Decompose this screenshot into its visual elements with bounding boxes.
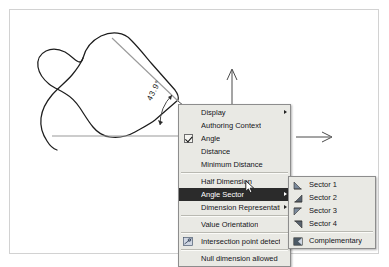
submenu-item-label: Sector 3 [309,204,337,217]
menu-item-half-dimension[interactable]: Half Dimension [179,175,290,188]
submenu-arrow-icon [284,110,287,114]
menu-item-angle-sector[interactable]: Angle Sector [179,188,290,201]
menu-item-authoring-context[interactable]: Authoring Context [179,119,290,132]
menu-item-label: Null dimension allowed [201,252,278,265]
menu-item-label: Dimension Representation [201,201,280,214]
menu-item-label: Angle [201,132,220,145]
menu-item-label: Minimum Distance [201,158,263,171]
menu-separator [181,172,288,174]
intersection-point-icon [183,237,193,246]
submenu-item-label: Complementary [309,234,362,247]
sector-1-icon [293,181,303,190]
submenu-item-sector-1[interactable]: Sector 1 [289,178,375,191]
submenu-item-sector-4[interactable]: Sector 4 [289,217,375,230]
submenu-item-sector-2[interactable]: Sector 2 [289,191,375,204]
submenu-item-complementary[interactable]: Complementary [289,234,375,247]
context-menu[interactable]: Display Authoring Context Angle Distance… [178,104,291,267]
menu-item-angle[interactable]: Angle [179,132,290,145]
menu-separator [181,249,288,251]
menu-item-null-dimension-allowed[interactable]: Null dimension allowed [179,252,290,265]
angle-sector-submenu[interactable]: Sector 1 Sector 2 Sector 3 [288,176,376,249]
menu-item-distance[interactable]: Distance [179,145,290,158]
submenu-arrow-icon [284,205,287,209]
menu-item-label: Authoring Context [201,119,261,132]
submenu-item-label: Sector 1 [309,178,337,191]
submenu-item-label: Sector 2 [309,191,337,204]
menu-item-display[interactable]: Display [179,106,290,119]
submenu-item-sector-3[interactable]: Sector 3 [289,204,375,217]
checkbox-icon[interactable] [184,134,193,143]
submenu-item-label: Sector 4 [309,217,337,230]
sector-4-icon [293,220,303,229]
menu-item-value-orientation[interactable]: Value Orientation [179,218,290,231]
submenu-separator [291,231,373,233]
complementary-icon [293,237,303,246]
menu-separator [181,232,288,234]
menu-item-dimension-representation[interactable]: Dimension Representation [179,201,290,214]
sector-2-icon [293,194,303,203]
sector-3-icon [293,207,303,216]
menu-item-intersection-point-detection[interactable]: Intersection point detection [179,235,290,248]
menu-item-label: Display [201,106,226,119]
menu-separator [181,215,288,217]
menu-item-minimum-distance[interactable]: Minimum Distance [179,158,290,171]
submenu-arrow-icon [284,192,287,196]
menu-item-label: Angle Sector [201,188,244,201]
menu-item-label: Value Orientation [201,218,258,231]
menu-item-label: Intersection point detection [201,235,280,248]
menu-item-label: Half Dimension [201,175,252,188]
menu-item-label: Distance [201,145,230,158]
